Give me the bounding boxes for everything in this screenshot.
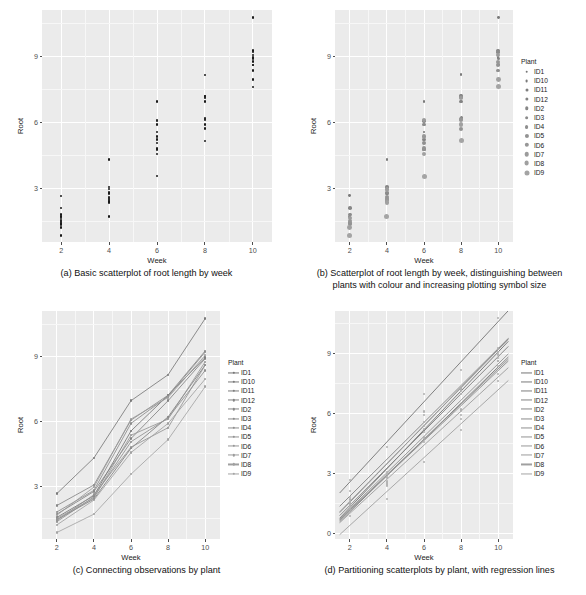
panel-a: 369246810WeekRoot(a) Basic scatterplot o… xyxy=(0,0,293,297)
legend-item-id9[interactable]: ID9 xyxy=(521,168,548,177)
legend-item-id4[interactable]: ID4 xyxy=(228,423,255,432)
legend-item-label: ID4 xyxy=(534,122,544,131)
regression-line xyxy=(340,359,509,520)
legend-item-id12[interactable]: ID12 xyxy=(521,396,548,405)
x-axis-title: Week xyxy=(335,256,513,265)
legend-key-icon xyxy=(228,396,239,405)
panel-c: 369246810WeekRootPlantID1ID10ID11ID12ID2… xyxy=(0,297,293,595)
data-point xyxy=(460,429,462,431)
legend-item-id3[interactable]: ID3 xyxy=(228,414,255,423)
y-axis-title: Root xyxy=(16,115,25,137)
plot-area-d xyxy=(335,311,513,539)
data-point xyxy=(349,504,351,506)
legend-item-id5[interactable]: ID5 xyxy=(521,131,548,140)
legend-item-id4[interactable]: ID4 xyxy=(521,423,548,432)
plot-area-a xyxy=(42,10,272,242)
legend-item-id8[interactable]: ID8 xyxy=(521,460,548,469)
legend-item-id8[interactable]: ID8 xyxy=(228,460,255,469)
data-point xyxy=(349,479,351,481)
y-tick-label: 3 xyxy=(318,469,331,478)
x-tick-mark xyxy=(424,242,425,245)
legend-item-label: ID8 xyxy=(534,159,544,168)
legend-item-id11[interactable]: ID11 xyxy=(228,386,255,395)
x-tick-label: 10 xyxy=(488,246,508,255)
x-tick-mark xyxy=(168,539,169,542)
data-point xyxy=(496,77,501,82)
data-point xyxy=(423,461,425,463)
legend-item-id10[interactable]: ID10 xyxy=(228,377,255,386)
legend-item-id10[interactable]: ID10 xyxy=(521,76,548,85)
legend-item-id10[interactable]: ID10 xyxy=(521,377,548,386)
legend-item-label: ID11 xyxy=(534,386,547,395)
legend-key-icon xyxy=(521,168,532,177)
legend-item-label: ID7 xyxy=(534,150,544,159)
legend-item-id1[interactable]: ID1 xyxy=(521,368,548,377)
x-tick-mark xyxy=(498,539,499,542)
legend-key-icon xyxy=(228,442,239,451)
data-point xyxy=(252,16,255,19)
legend-item-id2[interactable]: ID2 xyxy=(521,405,548,414)
legend-key-icon xyxy=(521,460,532,469)
x-tick-mark xyxy=(498,242,499,245)
legend-item-id6[interactable]: ID6 xyxy=(521,442,548,451)
data-point xyxy=(167,438,169,440)
legend-key-icon xyxy=(521,432,532,441)
legend-item-id12[interactable]: ID12 xyxy=(228,396,255,405)
legend-item-id5[interactable]: ID5 xyxy=(228,432,255,441)
legend-item-id6[interactable]: ID6 xyxy=(228,442,255,451)
legend-item-label: ID2 xyxy=(534,405,544,414)
x-tick-label: 8 xyxy=(195,246,215,255)
legend-item-id1[interactable]: ID1 xyxy=(521,67,548,76)
caption-line: (c) Connecting observations by plant xyxy=(0,565,293,577)
legend-item-id11[interactable]: ID11 xyxy=(521,386,548,395)
data-point xyxy=(56,517,58,519)
legend-item-id6[interactable]: ID6 xyxy=(521,141,548,150)
data-point xyxy=(156,100,159,103)
legend-item-label: ID1 xyxy=(534,67,544,76)
data-point xyxy=(423,414,425,416)
y-tick-mark xyxy=(40,56,43,57)
legend-item-id12[interactable]: ID12 xyxy=(521,95,548,104)
data-point xyxy=(130,422,132,424)
legend-item-id2[interactable]: ID2 xyxy=(228,405,255,414)
legend-item-id3[interactable]: ID3 xyxy=(521,113,548,122)
legend-item-id11[interactable]: ID11 xyxy=(521,85,548,94)
x-tick-mark xyxy=(252,242,253,245)
legend-item-id7[interactable]: ID7 xyxy=(521,150,548,159)
legend-item-id9[interactable]: ID9 xyxy=(228,469,255,478)
legend-plant: PlantID1ID10ID11ID12ID2ID3ID4ID5ID6ID7ID… xyxy=(228,359,255,478)
legend-key-icon xyxy=(521,67,532,76)
legend-item-id2[interactable]: ID2 xyxy=(521,104,548,113)
legend-item-label: ID12 xyxy=(534,396,548,405)
data-point xyxy=(349,499,351,501)
data-point xyxy=(423,421,425,423)
legend-key-icon xyxy=(228,386,239,395)
x-tick-label: 10 xyxy=(488,543,508,552)
x-axis-title: Week xyxy=(335,553,513,562)
legend-key-icon xyxy=(521,150,532,159)
data-point xyxy=(130,437,132,439)
legend-item-label: ID9 xyxy=(534,469,544,478)
legend-item-label: ID1 xyxy=(241,368,251,377)
data-point xyxy=(167,422,169,424)
data-point xyxy=(460,414,462,416)
legend-item-id8[interactable]: ID8 xyxy=(521,159,548,168)
legend-item-id7[interactable]: ID7 xyxy=(228,451,255,460)
data-point xyxy=(459,138,464,143)
legend-item-id7[interactable]: ID7 xyxy=(521,451,548,460)
legend-item-id3[interactable]: ID3 xyxy=(521,414,548,423)
x-tick-mark xyxy=(386,539,387,542)
x-tick-label: 4 xyxy=(377,246,397,255)
legend-item-id5[interactable]: ID5 xyxy=(521,432,548,441)
legend-item-id9[interactable]: ID9 xyxy=(521,469,548,478)
y-tick-label: 6 xyxy=(25,417,38,426)
x-tick-mark xyxy=(131,539,132,542)
legend-item-id1[interactable]: ID1 xyxy=(228,368,255,377)
legend-item-id4[interactable]: ID4 xyxy=(521,122,548,131)
legend-item-label: ID5 xyxy=(534,131,544,140)
legend-key-icon xyxy=(521,122,532,131)
legend-item-label: ID8 xyxy=(534,460,544,469)
legend-item-label: ID9 xyxy=(534,168,544,177)
x-tick-mark xyxy=(205,539,206,542)
legend-item-label: ID3 xyxy=(534,113,544,122)
